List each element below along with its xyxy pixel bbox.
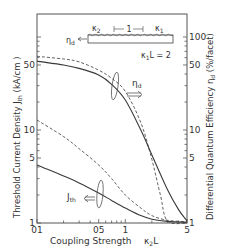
x-tick-label: 05 [93,225,104,235]
jth-arrow-icon [84,195,95,202]
tick-labels: 010515151050151050100 [24,32,207,235]
inset-k2-label: κ2 [92,24,101,34]
y-left-tick-label: 50 [24,60,36,70]
curve-jth-dashed [37,120,187,222]
x-axis-symbol: κ2L [144,236,158,247]
jth-marker: Jth [66,180,104,208]
y-right-tick-label: 5 [189,153,195,163]
curves [37,56,187,223]
curve--d-dashed [37,56,187,223]
x-tick-label: 1 [122,225,128,235]
y-right-tick-label: 1 [189,218,195,228]
chart: 010515151050151050100 κ2 κ1 1 ηd κ1L = 2… [0,0,226,252]
inset-output-arrow-icon [78,37,87,41]
k1l-annotation: κ1L = 2 [141,51,171,61]
inset-schematic: κ2 κ1 1 ηd κ1L = 2 [66,24,173,61]
inset-eta-label: ηd [66,36,75,46]
eta-loop-icon [110,72,120,101]
x-axis-title: Coupling Strength [50,236,131,246]
y-right-tick-label: 50 [189,60,201,70]
plot-frame [37,14,187,223]
inset-k1-label: κ1 [155,24,164,34]
eta-arrow-icon [127,91,142,98]
y-left-tick-label: 10 [24,125,36,135]
inset-waveguide [88,35,173,43]
y-right-tick-label: 100 [189,32,206,42]
curve-jth-solid [37,165,187,222]
inset-length-label: 1 [127,25,132,34]
y-axis-left-title: Threshold Current Density Jth (kA/cm ) [12,57,23,220]
y-axis-right-title: Differential Quantum Efficiency ηd (%/fa… [205,33,216,220]
eta-marker: ηd [110,72,142,101]
y-left-tick-label: 1 [29,218,35,228]
y-left-tick-label: 5 [29,153,35,163]
y-right-tick-label: 10 [189,125,201,135]
jth-label: Jth [66,192,76,203]
eta-label: ηd [132,78,142,89]
